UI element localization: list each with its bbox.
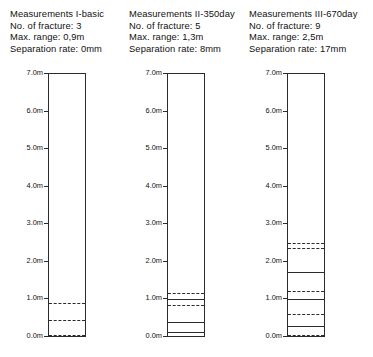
axis-tick-label: 6.0m [257, 107, 282, 114]
axis-tick-label: 5.0m [137, 144, 162, 151]
separation-rate-label: Separation rate: 8mm [129, 43, 235, 55]
fracture-count-label: No. of fracture: 5 [129, 20, 235, 32]
panel-title: Measurements III-670day [249, 8, 357, 20]
separation-rate-label: Separation rate: 17mm [249, 43, 357, 55]
fracture-line [168, 293, 204, 294]
axis-tick-label: 5.0m [257, 144, 282, 151]
axis-tick-label: 0.0m [137, 332, 162, 339]
axis-tick-label: 2.0m [137, 257, 162, 264]
axis-tick-label: 5.0m [18, 144, 43, 151]
fracture-count-label: No. of fracture: 9 [249, 20, 357, 32]
axis-tick-label: 3.0m [257, 219, 282, 226]
axis-tick-label: 1.0m [257, 294, 282, 301]
axis-tick-label: 4.0m [257, 182, 282, 189]
axis-tick-label: 1.0m [137, 294, 162, 301]
fracture-line [288, 248, 324, 249]
figure-root: Measurements I-basicNo. of fracture: 3Ma… [0, 0, 373, 357]
axis-tick-label: 7.0m [18, 69, 43, 76]
panel-title: Measurements I-basic [10, 8, 104, 20]
borehole-column [48, 73, 86, 337]
fracture-line [288, 243, 324, 244]
axis-tick-label: 2.0m [257, 257, 282, 264]
borehole-column [167, 73, 205, 337]
axis-tick-label: 0.0m [257, 332, 282, 339]
axis-tick-label: 7.0m [137, 69, 162, 76]
fracture-line [288, 272, 324, 273]
max-range-label: Max. range: 0,9m [10, 31, 104, 43]
axis-tick-label: 4.0m [137, 182, 162, 189]
axis-tick-label: 6.0m [137, 107, 162, 114]
axis-tick-label: 3.0m [137, 219, 162, 226]
fracture-line [288, 335, 324, 336]
fracture-line [168, 305, 204, 306]
panel-header: Measurements III-670dayNo. of fracture: … [249, 8, 357, 54]
fracture-line [49, 303, 85, 304]
max-range-label: Max. range: 2,5m [249, 31, 357, 43]
fracture-line [288, 326, 324, 327]
axis-tick-label: 0.0m [18, 332, 43, 339]
axis-tick-label: 2.0m [18, 257, 43, 264]
fracture-line [49, 320, 85, 321]
panel-header: Measurements II-350dayNo. of fracture: 5… [129, 8, 235, 54]
fracture-line [168, 299, 204, 300]
fracture-line [288, 299, 324, 300]
fracture-line [288, 314, 324, 315]
axis-tick-label: 1.0m [18, 294, 43, 301]
axis-tick-label: 6.0m [18, 107, 43, 114]
panel-header: Measurements I-basicNo. of fracture: 3Ma… [10, 8, 104, 54]
fracture-line [288, 291, 324, 292]
axis-tick-label: 3.0m [18, 219, 43, 226]
max-range-label: Max. range: 1,3m [129, 31, 235, 43]
fracture-count-label: No. of fracture: 3 [10, 20, 104, 32]
axis-tick-label: 7.0m [257, 69, 282, 76]
separation-rate-label: Separation rate: 0mm [10, 43, 104, 55]
fracture-line [168, 332, 204, 333]
panel-title: Measurements II-350day [129, 8, 235, 20]
fracture-line [168, 322, 204, 323]
borehole-column [287, 73, 325, 337]
fracture-line [49, 335, 85, 336]
axis-tick-label: 4.0m [18, 182, 43, 189]
